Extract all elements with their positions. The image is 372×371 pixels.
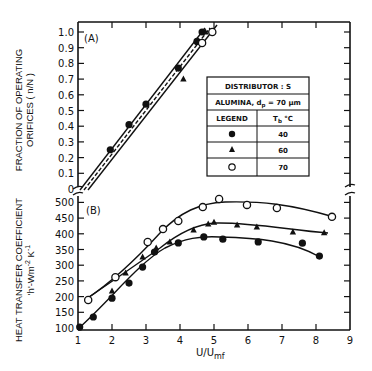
curve-b-40 [80, 237, 320, 327]
tick-label-a: 0.5 [58, 106, 74, 117]
filled-circle-marker [175, 65, 182, 72]
filled-triangle-marker [211, 219, 217, 225]
tick-label-x: 8 [313, 335, 319, 346]
filled-circle-marker [219, 236, 226, 243]
filled-circle-marker [125, 121, 132, 128]
tick-labels: 1.00.90.80.70.60.50.40.30.20.10500450400… [55, 27, 353, 346]
tick-label-x: 2 [109, 335, 115, 346]
legend-value-40: 40 [278, 131, 288, 139]
filled-circle-marker [139, 263, 146, 270]
panel-a-label: (A) [84, 33, 99, 44]
legend-col-temp: Tb °C [273, 115, 293, 124]
tick-label-b: 300 [55, 260, 74, 271]
axis-break-marks [73, 184, 355, 195]
filled-circle-marker [175, 239, 182, 246]
tick-label-a: 0 [68, 184, 74, 195]
figure: 1.00.90.80.70.60.50.40.30.20.10500450400… [0, 0, 372, 371]
filled-circle-marker [200, 233, 207, 240]
tick-label-b: 350 [55, 245, 74, 256]
tick-label-x: 3 [143, 335, 149, 346]
tick-label-a: 0.9 [58, 43, 74, 54]
open-circle-marker [199, 204, 206, 211]
tick-label-b: 100 [55, 323, 74, 334]
legend-table: DISTRIBUTOR : S ALUMINA, dp = 70 μm LEGE… [207, 77, 309, 176]
legend-filled-circle-icon [229, 131, 235, 137]
tick-label-a: 0.7 [58, 74, 74, 85]
y-title-b-line1: HEAT TRANSFER COEFFICIENT [13, 198, 24, 342]
legend-col-legend: LEGEND [216, 115, 248, 123]
tick-label-b: 250 [55, 276, 74, 287]
tick-label-x: 7 [279, 335, 285, 346]
curve-a-70 [88, 25, 217, 190]
legend-open-circle-icon [229, 164, 235, 170]
tick-label-b: 150 [55, 307, 74, 318]
tick-label-b: 500 [55, 197, 74, 208]
open-circle-marker [144, 238, 151, 245]
open-circle-marker [85, 296, 92, 303]
tick-label-b: 450 [55, 213, 74, 224]
tick-label-x: 5 [211, 335, 217, 346]
tick-label-a: 0.1 [58, 168, 74, 179]
filled-triangle-marker [234, 222, 240, 228]
open-circle-marker [112, 274, 119, 281]
tick-label-a: 0.8 [58, 58, 74, 69]
filled-triangle-marker [180, 76, 186, 82]
curve-a-60 [84, 28, 210, 190]
tick-label-a: 0.2 [58, 153, 74, 164]
filled-circle-marker [107, 146, 114, 153]
filled-circle-marker [316, 252, 323, 259]
tick-label-b: 200 [55, 292, 74, 303]
filled-circle-marker [299, 240, 306, 247]
open-circle-marker [216, 195, 223, 202]
filled-circle-marker [108, 295, 115, 302]
open-circle-marker [199, 39, 206, 46]
data-markers [76, 28, 335, 330]
tick-label-a: 0.3 [58, 137, 74, 148]
filled-circle-marker [125, 279, 132, 286]
tick-label-x: 6 [245, 335, 251, 346]
filled-circle-marker [255, 238, 262, 245]
panel-b-label: (B) [86, 205, 101, 216]
y-axis-title-b: HEAT TRANSFER COEFFICIENT 'h'-Wm-2 K-1 [13, 198, 36, 342]
tick-label-a: 1.0 [58, 27, 74, 38]
open-circle-marker [328, 213, 335, 220]
tick-label-x: 4 [177, 335, 183, 346]
x-axis-title: U/Umf [196, 347, 225, 361]
filled-triangle-marker [109, 287, 115, 293]
open-circle-marker [159, 225, 166, 232]
y-title-a-line1: FRACTION OF OPERATING [13, 49, 24, 171]
y-axis-title-a: FRACTION OF OPERATING ORIFICES ( n/N ) [13, 49, 35, 171]
open-circle-marker [175, 217, 182, 224]
open-circle-marker [209, 28, 216, 35]
y-title-a-line2: ORIFICES ( n/N ) [24, 73, 35, 147]
filled-triangle-marker [153, 244, 159, 250]
legend-value-70: 70 [278, 164, 288, 172]
open-circle-marker [243, 201, 250, 208]
tick-label-b: 400 [55, 229, 74, 240]
tick-label-x: 9 [347, 335, 353, 346]
curve-a-40 [80, 28, 205, 190]
y-title-b-line2: 'h'-Wm-2 K-1 [24, 245, 36, 296]
filled-circle-marker [90, 313, 97, 320]
filled-circle-marker [76, 323, 83, 330]
filled-circle-marker [142, 101, 149, 108]
tick-label-a: 0.6 [58, 90, 74, 101]
legend-title: DISTRIBUTOR : S [225, 83, 291, 91]
tick-label-x: 1 [75, 335, 81, 346]
tick-label-a: 0.4 [58, 121, 74, 132]
legend-value-60: 60 [278, 147, 288, 155]
open-circle-marker [273, 204, 280, 211]
